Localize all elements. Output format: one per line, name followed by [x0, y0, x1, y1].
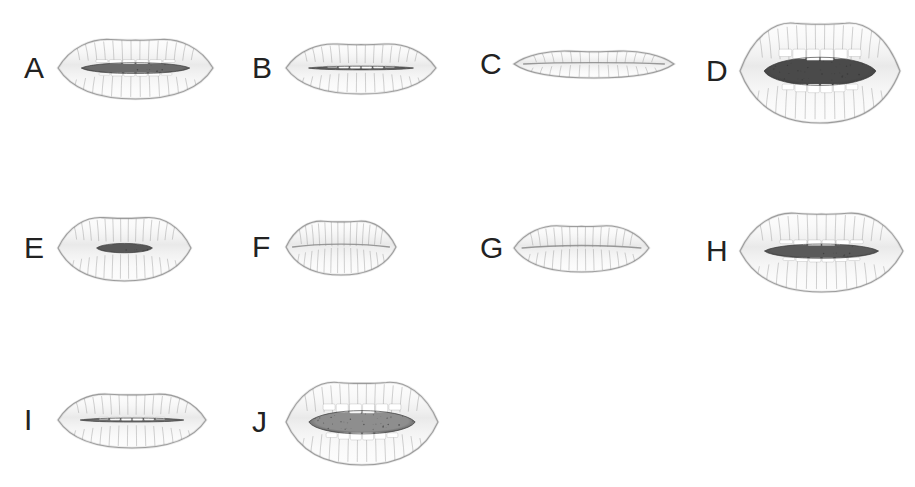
mouth-e-illustration	[58, 215, 191, 281]
panel-a: A	[24, 18, 234, 118]
mouth-f-illustration	[286, 219, 396, 275]
panel-label-i: I	[24, 405, 58, 435]
panel-i: I	[24, 372, 234, 467]
mouth-d-illustration	[740, 19, 900, 123]
mouth-g-illustration	[514, 224, 649, 272]
panel-label-c: C	[480, 49, 514, 79]
panel-b: B	[252, 20, 462, 115]
panel-e: E	[24, 200, 234, 295]
panel-label-e: E	[24, 233, 58, 263]
panel-label-j: J	[252, 407, 286, 437]
panel-label-f: F	[252, 232, 286, 262]
mouth-j-illustration	[286, 379, 438, 465]
panel-label-b: B	[252, 53, 286, 83]
panel-c: C	[480, 24, 690, 104]
panel-g: G	[480, 204, 690, 292]
panel-j: J	[252, 368, 462, 476]
panel-d: D	[706, 8, 915, 133]
panel-label-g: G	[480, 233, 514, 263]
mouth-i-illustration	[58, 392, 206, 448]
panel-h: H	[706, 196, 915, 306]
panel-f: F	[252, 202, 462, 292]
mouth-b-illustration	[286, 42, 436, 94]
mouth-h-illustration	[740, 210, 903, 292]
mouth-a-illustration	[58, 37, 213, 99]
panel-label-d: D	[706, 56, 740, 86]
panel-label-h: H	[706, 236, 740, 266]
panel-label-a: A	[24, 53, 58, 83]
mouth-c-illustration	[514, 50, 674, 78]
viseme-figure: A B	[0, 0, 915, 487]
